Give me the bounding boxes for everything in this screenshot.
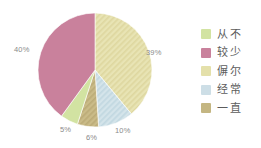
legend-item-ouer[interactable]: 偋尔	[201, 66, 259, 76]
legend-swatch-icon	[201, 29, 211, 39]
legend-item-label: 从不	[217, 29, 242, 40]
legend-swatch-icon	[201, 66, 211, 76]
chart-legend: 从不 较少 偋尔 经常 一直	[201, 29, 259, 113]
legend-item-label: 经常	[217, 84, 242, 95]
pie-chart-figure: 39% 10% 6% 5% 40% 从不 较少 偋尔 经常 一直	[0, 0, 261, 148]
legend-swatch-icon	[201, 48, 211, 58]
slice-data-label: 10%	[115, 126, 131, 135]
pie-slices-group	[38, 13, 152, 127]
legend-item-jiaoshao[interactable]: 较少	[201, 48, 259, 58]
slice-data-label: 6%	[86, 133, 97, 142]
legend-item-label: 较少	[217, 47, 242, 58]
legend-swatch-icon	[201, 103, 211, 113]
legend-item-congbu[interactable]: 从不	[201, 29, 259, 39]
pie-plot-area: 39% 10% 6% 5% 40%	[0, 0, 195, 148]
pie-svg	[0, 0, 195, 148]
slice-data-label: 5%	[60, 125, 71, 134]
legend-item-jingchang[interactable]: 经常	[201, 85, 259, 95]
slice-data-label: 39%	[146, 48, 162, 57]
legend-swatch-icon	[201, 85, 211, 95]
legend-item-yizhi[interactable]: 一直	[201, 103, 259, 113]
legend-item-label: 一直	[217, 103, 242, 114]
legend-item-label: 偋尔	[217, 66, 242, 77]
slice-data-label: 40%	[14, 45, 30, 54]
